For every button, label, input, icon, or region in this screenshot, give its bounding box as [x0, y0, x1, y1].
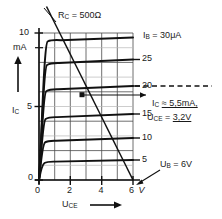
curve-label-ticks [133, 60, 140, 161]
x-tick-label-0: 0 [35, 186, 40, 195]
x-tick-label-4: 4 [99, 186, 104, 195]
result-uce-equals: = [163, 112, 173, 122]
curve-label-ib-30: IB = 30μA [143, 31, 181, 41]
result-ic: IC ≈ 5,5mA, [152, 99, 198, 109]
load-line [47, 7, 134, 181]
chart-canvas [0, 0, 222, 219]
supply-voltage-label: UB = 6V [160, 160, 192, 170]
operating-point-marker [80, 92, 85, 97]
operating-point-arrow [84, 92, 146, 98]
x-axis-unit-label: V [139, 186, 145, 195]
transistor-output-characteristics-figure: RC = 500Ω IB = 30μA 25 20 15 10 5 10 mA … [0, 0, 222, 219]
y-axis-title: IC [12, 106, 19, 116]
x-axis-title-subscript: CE [69, 202, 78, 209]
load-line-label: RC = 500Ω [58, 11, 101, 21]
x-tick-label-2: 2 [67, 186, 72, 195]
result-ic-subscript: C [155, 101, 160, 108]
result-uce-subscript: CE [154, 115, 163, 122]
curve-label-ib-20: 20 [142, 81, 152, 90]
result-uce: UCE = 3,2V [147, 113, 191, 123]
load-line-label-value: = 500Ω [69, 10, 101, 20]
curve-label-ib-5: 5 [142, 155, 147, 164]
curve-label-ib-25: 25 [142, 54, 152, 63]
y-tick-label-5: 5 [27, 102, 32, 111]
result-ic-value: ≈ 5,5mA, [162, 98, 198, 108]
x-tick-label-6: 6 [129, 186, 134, 195]
rc-label-leader [44, 8, 56, 22]
y-axis-title-subscript: C [15, 108, 20, 115]
ub-label-value: = 6V [171, 159, 192, 169]
y-tick-label-0: 0 [28, 173, 33, 182]
y-axis-direction-arrow [14, 56, 21, 92]
x-axis-title: UCE [62, 200, 78, 210]
ub-pointer-arrow [136, 170, 160, 185]
curve-label-ib-10: 10 [142, 133, 152, 142]
result-uce-value: 3,2V [173, 112, 192, 122]
y-axis-unit-label: mA [13, 43, 27, 52]
ib-label-value: = 30μA [150, 30, 181, 40]
y-tick-label-10: 10 [19, 28, 29, 37]
x-axis-direction-arrow [90, 201, 122, 208]
